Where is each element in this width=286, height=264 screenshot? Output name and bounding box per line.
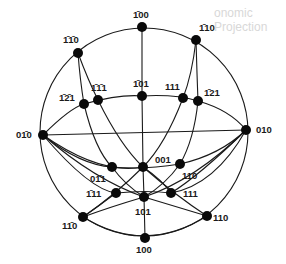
- pole-dot-p_111_up: [178, 93, 188, 103]
- pole-label-p_110_low: 110: [213, 212, 228, 223]
- pole-label-p_101: 101: [135, 206, 152, 217]
- pole-dot-p_m1m11: [93, 95, 103, 105]
- pole-label-p_m1m21: 1̄2̄1: [59, 92, 76, 103]
- pole-label-p_m121: 1̄21: [204, 87, 221, 98]
- pole-dot-p_100: [140, 233, 150, 243]
- pole-label-p_001: 001: [155, 154, 172, 165]
- pole-dot-p_001: [138, 162, 148, 172]
- pole-label-p_m100: 1̄00: [133, 9, 149, 20]
- great-circle-gc_equator_horizontal: [43, 130, 246, 135]
- stereographic-projection: 1̄001̄101̄1̄01̄011̄1̄11̄2̄11111̄2101̄001…: [0, 0, 286, 264]
- pole-dot-p_m110: [191, 35, 201, 45]
- pole-dot-p_0m10: [38, 130, 48, 140]
- pole-label-p_m111: 1̄11: [86, 188, 102, 199]
- pole-label-p_100: 100: [136, 244, 152, 255]
- pole-label-p_0m10: 01̄0: [16, 129, 32, 140]
- pole-dot-p_m121: [193, 96, 203, 106]
- pole-label-p_111_low: 111: [183, 188, 199, 199]
- pole-label-p_110_mid: 110: [182, 170, 197, 181]
- pole-dot-p_m1m21: [79, 99, 89, 109]
- pole-dot-p_010: [241, 125, 251, 135]
- pole-label-p_111_up: 111: [165, 81, 181, 92]
- pole-label-p_1m10: 11̄0: [62, 220, 77, 231]
- pole-dot-p_1m10: [78, 212, 88, 222]
- pole-label-p_m1m11: 1̄1̄1: [91, 82, 108, 93]
- great-circle-gc_0m10_to_111low: [43, 135, 171, 193]
- pole-label-p_m101: 1̄01: [133, 78, 150, 89]
- pole-dot-p_m100: [137, 22, 147, 32]
- pole-dot-p_m101: [137, 91, 147, 101]
- pole-label-p_m1m10: 1̄1̄0: [63, 34, 79, 45]
- pole-dot-p_m111: [111, 188, 121, 198]
- pole-label-p_m110: 1̄10: [199, 22, 215, 33]
- pole-label-p_010: 010: [256, 124, 272, 135]
- pole-dot-p_m1m10: [73, 48, 83, 58]
- pole-dot-p_101: [139, 192, 149, 202]
- pole-dot-p_0m11: [107, 162, 117, 172]
- pole-dot-p_110_mid: [175, 159, 185, 169]
- great-circle-gc_010_to_1m10: [83, 130, 246, 217]
- pole-dot-p_110_low: [202, 211, 212, 221]
- pole-dot-p_111_low: [166, 188, 176, 198]
- pole-label-p_0m11: 01̄1: [90, 173, 107, 184]
- great-circle-gc_010_to_m111: [83, 130, 246, 217]
